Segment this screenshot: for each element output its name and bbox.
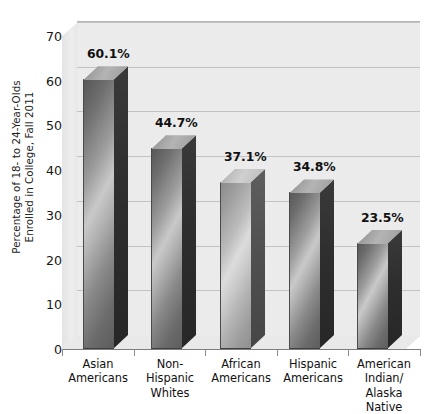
y-axis-tick-label: 50	[32, 118, 62, 133]
bar-value-label: 44.7%	[155, 115, 198, 130]
bar-front-face	[151, 148, 182, 349]
bar-side-face	[319, 179, 334, 349]
bar-front-face	[357, 243, 388, 349]
x-axis-category-label: AsianAmericans	[62, 357, 134, 386]
y-axis-title-line-1: Percentage of 18- to 24-Year-Olds	[10, 80, 23, 253]
x-axis-category-label: Non-HispanicWhites	[134, 357, 206, 400]
x-axis-category-label-line: Americans	[205, 371, 277, 385]
bar-side-face	[181, 135, 196, 349]
y-axis-tick-label: 20	[32, 252, 62, 267]
x-axis-category-label-line: African	[205, 357, 277, 371]
x-axis-category-label-line: Hispanic	[277, 357, 349, 371]
x-axis-tick-mark	[420, 349, 421, 356]
y-axis-tick-label: 10	[32, 297, 62, 312]
x-axis-category-label-line: Asian	[62, 357, 134, 371]
x-axis-category-label: HispanicAmericans	[277, 357, 349, 386]
bar	[151, 135, 211, 349]
y-axis-tick-label: 0	[32, 342, 62, 357]
bar-front-face	[83, 79, 114, 349]
x-axis-category-label-line: Indian/	[348, 371, 420, 385]
x-axis-line	[62, 349, 420, 350]
x-axis-tick-mark	[62, 349, 63, 356]
x-axis-category-label-line: Alaska	[348, 386, 420, 400]
x-axis-tick-mark	[277, 349, 278, 356]
bar-value-label: 60.1%	[87, 46, 130, 61]
x-axis-category-label-line: American	[348, 357, 420, 371]
y-axis-tick-label: 60	[32, 73, 62, 88]
gridline	[77, 22, 420, 23]
x-axis-category-label-line: Native	[348, 400, 420, 414]
x-axis-tick-mark	[348, 349, 349, 356]
bar-side-face	[250, 169, 265, 349]
x-axis-category-label-line: Non-Hispanic	[134, 357, 206, 386]
x-axis-category-label: AfricanAmericans	[205, 357, 277, 386]
bar	[289, 179, 349, 349]
bar	[220, 169, 280, 349]
x-axis-category-label-line: Americans	[277, 371, 349, 385]
bar	[357, 230, 417, 349]
x-axis-category-label-line: Americans	[62, 371, 134, 385]
bar-value-label: 34.8%	[293, 159, 336, 174]
y-axis-tick-label: 30	[32, 207, 62, 222]
bar	[83, 66, 143, 349]
plot-left-wall	[62, 22, 78, 350]
bar-front-face	[289, 192, 320, 349]
bar-side-face	[113, 66, 128, 349]
y-axis-tick-labels: 010203040506070	[30, 0, 62, 414]
bar-side-face	[387, 230, 402, 349]
y-axis-tick-label: 70	[32, 29, 62, 44]
x-axis-tick-mark	[205, 349, 206, 356]
bar-value-label: 37.1%	[224, 149, 267, 164]
x-axis-category-label-line: Whites	[134, 386, 206, 400]
x-axis-category-label: AmericanIndian/AlaskaNative	[348, 357, 420, 414]
y-axis-tick-label: 40	[32, 163, 62, 178]
bar-value-label: 23.5%	[361, 210, 404, 225]
bar-front-face	[220, 182, 251, 349]
bar-chart: Percentage of 18- to 24-Year-Olds Enroll…	[0, 0, 433, 414]
x-axis-tick-mark	[134, 349, 135, 356]
